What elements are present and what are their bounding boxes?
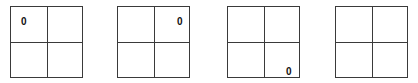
grid-2: 0 [117,6,190,78]
grid-4-cell-top-right [373,7,409,42]
grid-2-cell-bottom-right [155,43,191,78]
grid-3-cell-bottom-right: 0 [265,43,301,78]
grid-3-cell-top-left [228,7,264,42]
grid-3: 0 [227,6,300,78]
grid-2-cell-bottom-left [118,43,154,78]
grid-1-cell-top-left: 0 [11,7,47,42]
grid-4 [335,6,408,78]
grid-3-cell-top-right [265,7,301,42]
grid-1-cell-top-right [48,7,84,42]
cell-marker: 0 [286,67,292,77]
cell-marker: 0 [21,17,27,27]
grid-2-cell-top-right: 0 [155,7,191,42]
grid-1: 0 [10,6,83,78]
grid-1-cell-bottom-left [11,43,47,78]
grid-3-cell-bottom-left [228,43,264,78]
grid-1-cell-bottom-right [48,43,84,78]
cell-marker: 0 [177,17,183,27]
grid-4-cell-bottom-left [336,43,372,78]
grid-2-cell-top-left [118,7,154,42]
grid-4-cell-bottom-right [373,43,409,78]
grid-4-cell-top-left [336,7,372,42]
